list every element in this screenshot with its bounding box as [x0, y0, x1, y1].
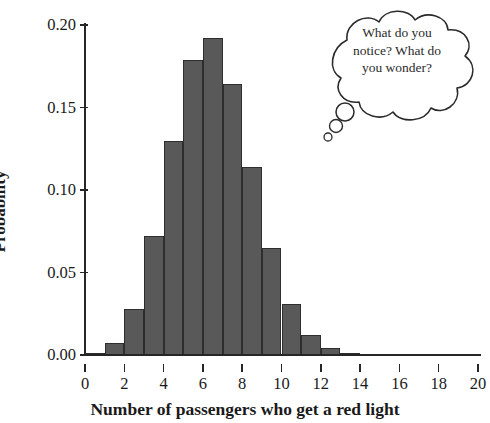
x-tick-label: 6 [183, 375, 223, 392]
x-axis-line [84, 354, 481, 356]
x-tick-mark-6 [202, 364, 204, 372]
x-tick-label: 4 [144, 375, 184, 392]
x-tick-mark-20 [477, 364, 479, 372]
x-tick-mark-18 [438, 364, 440, 372]
x-tick-mark-8 [241, 364, 243, 372]
y-tick-label: 0.20 [24, 17, 76, 34]
x-tick-label: 16 [379, 375, 419, 392]
x-tick-mark-0 [84, 364, 86, 372]
y-tick-label: 0.10 [24, 182, 76, 199]
y-tick-label: 0.15 [24, 100, 76, 117]
y-tick-mark [80, 189, 88, 191]
bar-2 [124, 309, 144, 355]
bar-9 [262, 248, 282, 355]
y-tick-mark [80, 107, 88, 109]
x-tick-label: 18 [419, 375, 459, 392]
bar-5 [183, 60, 203, 355]
x-axis-label: Number of passengers who get a red light [0, 399, 490, 420]
bar-8 [242, 167, 262, 355]
y-tick-label: 0.00 [24, 347, 76, 364]
bar-4 [164, 141, 184, 356]
x-tick-label: 0 [65, 375, 105, 392]
x-tick-mark-4 [163, 364, 165, 372]
y-tick-mark [80, 24, 88, 26]
x-tick-label: 14 [340, 375, 380, 392]
x-tick-mark-10 [281, 364, 283, 372]
x-tick-label: 20 [458, 375, 490, 392]
x-tick-mark-2 [124, 364, 126, 372]
x-tick-label: 2 [104, 375, 144, 392]
x-tick-label: 12 [301, 375, 341, 392]
bar-3 [144, 236, 164, 355]
y-tick-mark [80, 272, 88, 274]
x-tick-mark-14 [359, 364, 361, 372]
thought-bubble-text: What do younotice? What doyou wonder? [335, 24, 459, 77]
thought-bubble-line: you wonder? [335, 59, 459, 77]
bar-6 [203, 38, 223, 355]
bar-11 [301, 335, 321, 355]
probability-histogram-chart: Probability 0.000.050.100.150.20 0246810… [0, 0, 490, 423]
bar-7 [223, 84, 243, 355]
thought-bubble-annotation: What do younotice? What doyou wonder? [305, 4, 485, 144]
x-tick-mark-16 [399, 364, 401, 372]
x-tick-label: 8 [222, 375, 262, 392]
thought-bubble-line: What do you [335, 24, 459, 42]
x-tick-label: 10 [262, 375, 302, 392]
thought-bubble-line: notice? What do [335, 42, 459, 60]
y-tick-label: 0.05 [24, 265, 76, 282]
x-tick-mark-12 [320, 364, 322, 372]
bar-10 [282, 304, 302, 355]
